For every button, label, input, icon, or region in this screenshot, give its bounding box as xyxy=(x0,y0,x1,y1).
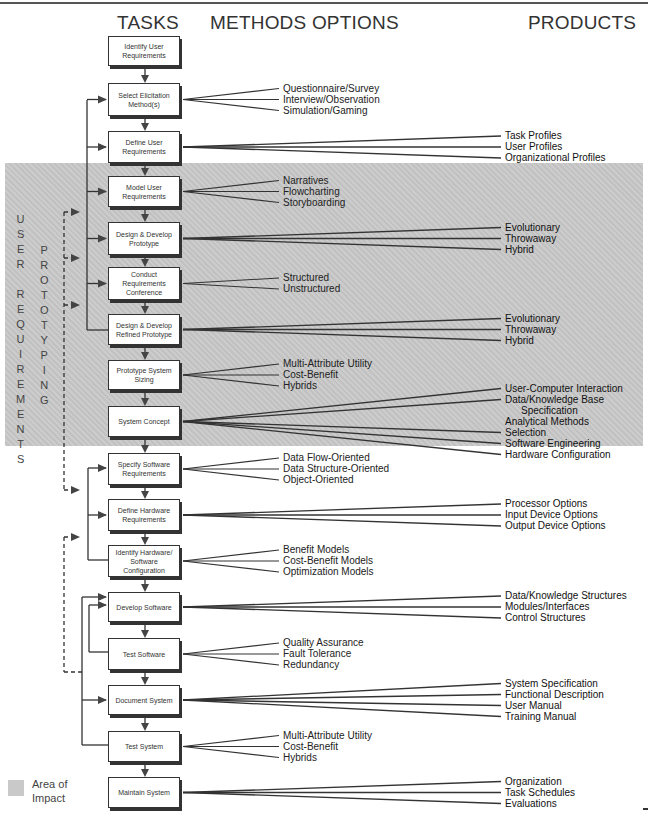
task-box: Define User Requirements xyxy=(108,131,180,163)
method-option: Hybrids xyxy=(283,752,317,764)
product-item: Organizational Profiles xyxy=(505,152,606,164)
task-box: Conduct Requirements Conference xyxy=(108,267,180,300)
method-option: Redundancy xyxy=(283,659,339,671)
method-option: Storyboarding xyxy=(283,197,345,209)
task-box: System Concept xyxy=(108,406,180,437)
product-item: Hardware Configuration xyxy=(505,449,611,461)
method-option: Hybrids xyxy=(283,380,317,392)
task-box: Develop Software xyxy=(108,592,180,622)
product-item: Control Structures xyxy=(505,612,586,624)
method-option: Object-Oriented xyxy=(283,474,354,486)
method-option: Optimization Models xyxy=(283,566,374,578)
product-item: Hybrid xyxy=(505,335,534,347)
task-box: Model User Requirements xyxy=(108,176,180,207)
task-box: Test System xyxy=(108,731,180,762)
task-box: Document System xyxy=(108,685,180,715)
product-item: Output Device Options xyxy=(505,520,606,532)
legend-label: Area of Impact xyxy=(32,777,67,805)
task-box: Define Hardware Requirements xyxy=(108,499,180,531)
task-box: Design & Develop Refined Prototype xyxy=(108,314,180,345)
product-item: Hybrid xyxy=(505,244,534,256)
product-item: Evaluations xyxy=(505,798,557,810)
method-option: Simulation/Gaming xyxy=(283,105,367,117)
task-box: Specify Software Requirements xyxy=(108,453,180,485)
task-box: Test Software xyxy=(108,638,180,670)
method-option: Unstructured xyxy=(283,283,340,295)
task-box: Identify User Requirements xyxy=(108,36,180,66)
legend-swatch xyxy=(8,780,24,796)
task-box: Identify Hardware/ Software Configuratio… xyxy=(108,545,180,577)
task-box: Prototype System Sizing xyxy=(108,360,180,390)
task-box: Maintain System xyxy=(108,777,180,808)
product-item: Training Manual xyxy=(505,711,576,723)
task-box: Design & Develop Prototype xyxy=(108,222,180,255)
task-box: Select Elicitation Method(s) xyxy=(108,83,180,116)
end-mark xyxy=(643,808,648,810)
